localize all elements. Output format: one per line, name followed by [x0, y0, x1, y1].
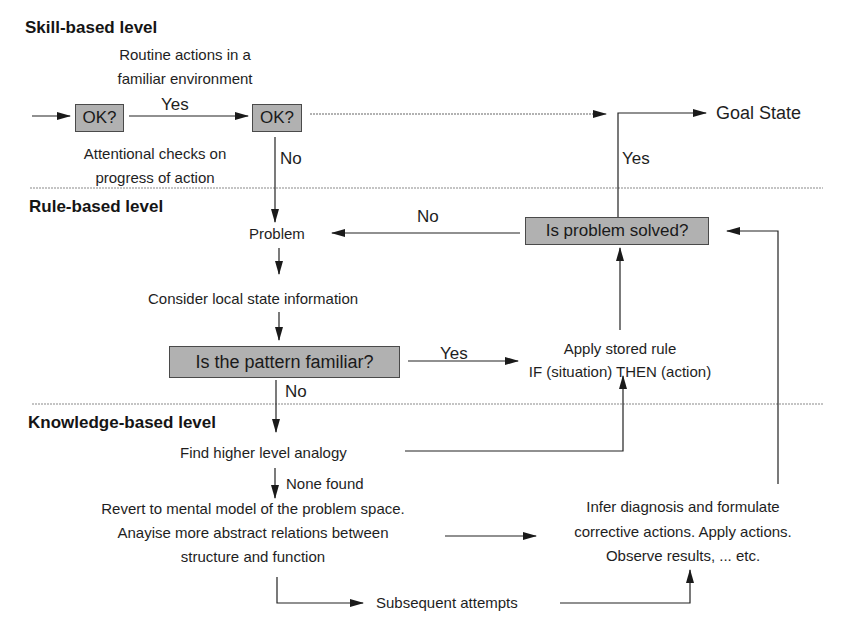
revert-mental-model-line2: Anayise more abstract relations between: [60, 524, 446, 542]
infer-diagnosis-line2: corrective actions. Apply actions.: [543, 523, 823, 541]
consider-local-state: Consider local state information: [148, 290, 358, 308]
none-found-label: None found: [286, 475, 364, 493]
revert-mental-model-line1: Revert to mental model of the problem sp…: [60, 500, 446, 518]
rule-level-heading: Rule-based level: [29, 198, 163, 216]
attentional-checks-line1: Attentional checks on: [60, 145, 250, 163]
is-problem-solved-box: Is problem solved?: [525, 217, 709, 245]
routine-actions-line1: Routine actions in a: [100, 46, 270, 64]
no-label-pattern: No: [285, 383, 307, 401]
yes-label-ok: Yes: [161, 96, 189, 114]
no-label-ok: No: [280, 150, 302, 168]
infer-diagnosis-line3: Observe results, ... etc.: [543, 547, 823, 565]
diagram-connectors: [0, 0, 843, 639]
gems-diagram: Skill-based level Rule-based level Knowl…: [0, 0, 843, 639]
is-pattern-familiar-box: Is the pattern familiar?: [169, 346, 400, 378]
revert-mental-model-line3: structure and function: [60, 548, 446, 566]
ok-check-box-2: OK?: [252, 104, 302, 132]
apply-stored-rule-line2: IF (situation) THEN (action): [520, 363, 720, 381]
ok-check-box-1: OK?: [75, 104, 124, 132]
yes-label-goal: Yes: [622, 150, 650, 168]
subsequent-attempts: Subsequent attempts: [376, 594, 518, 612]
yes-label-pattern: Yes: [440, 345, 468, 363]
problem-node: Problem: [249, 225, 305, 243]
attentional-checks-line2: progress of action: [60, 169, 250, 187]
infer-diagnosis-line1: Infer diagnosis and formulate: [543, 498, 823, 516]
find-higher-level-analogy: Find higher level analogy: [180, 444, 347, 462]
apply-stored-rule-line1: Apply stored rule: [520, 340, 720, 358]
routine-actions-line2: familiar environment: [100, 70, 270, 88]
skill-level-heading: Skill-based level: [25, 19, 157, 37]
goal-state: Goal State: [716, 103, 801, 123]
no-label-solved: No: [417, 208, 439, 226]
knowledge-level-heading: Knowledge-based level: [28, 414, 216, 432]
